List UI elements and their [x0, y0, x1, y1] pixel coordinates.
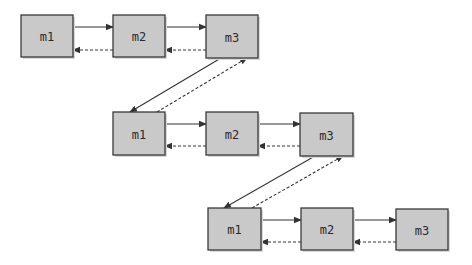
edge-r1-m3-to-r2-m1-solid-arrow — [130, 58, 221, 112]
edge-r3-m1-to-r2-m3-dashed-arrow — [252, 156, 343, 208]
node-label: m2 — [132, 30, 146, 44]
node-r2-m2: m2 — [206, 112, 260, 157]
node-r3-m1: m1 — [208, 208, 263, 252]
node-label: m1 — [40, 30, 54, 44]
node-r1-m3: m3 — [206, 15, 260, 60]
node-r1-m2: m2 — [113, 15, 167, 59]
node-label: m3 — [415, 224, 429, 238]
node-label: m1 — [132, 128, 146, 142]
node-r1-m1: m1 — [21, 15, 75, 59]
node-label: m2 — [225, 128, 239, 142]
diagram-canvas: m1m2m3m1m2m3m1m2m3 — [0, 0, 472, 265]
node-label: m1 — [227, 223, 241, 237]
edge-r2-m1-to-r1-m3-dashed-arrow — [157, 58, 247, 112]
node-r3-m2: m2 — [301, 208, 355, 252]
node-label: m2 — [320, 223, 334, 237]
node-label: m3 — [225, 31, 239, 45]
edge-r2-m3-to-r3-m1-solid-arrow — [224, 156, 315, 208]
node-r2-m3: m3 — [300, 113, 355, 158]
node-label: m3 — [319, 129, 333, 143]
node-r3-m3: m3 — [396, 209, 450, 252]
node-r2-m1: m1 — [113, 112, 167, 157]
